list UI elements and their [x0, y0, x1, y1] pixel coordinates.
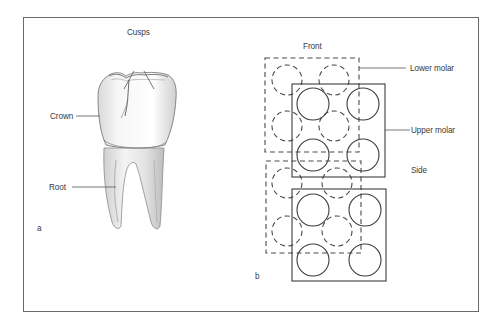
figure-artwork	[0, 0, 499, 321]
upper-molar-upper-square	[292, 84, 385, 177]
label-upper-molar: Upper molar	[411, 124, 455, 135]
label-lower-molar: Lower molar	[410, 62, 454, 73]
lower-molar-lower-square	[266, 161, 361, 253]
lower-molar-upper-square	[265, 58, 359, 152]
label-side: Side	[411, 164, 427, 175]
panel-a-label: a	[37, 222, 41, 233]
panel-b-label: b	[255, 270, 259, 281]
label-front: Front	[303, 40, 322, 51]
label-root: Root	[49, 181, 66, 192]
molar-tooth-illustration	[98, 72, 176, 228]
label-crown: Crown	[50, 110, 73, 121]
occlusion-diagram	[265, 58, 386, 281]
upper-molar-lower-square	[292, 189, 386, 281]
label-cusps: Cusps	[127, 26, 150, 37]
tooth-crown	[98, 72, 176, 148]
